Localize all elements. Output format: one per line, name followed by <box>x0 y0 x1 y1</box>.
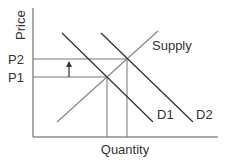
up-arrow-icon <box>66 61 72 77</box>
y-axis-label: Price <box>13 10 28 40</box>
x-axis-label: Quantity <box>101 142 150 157</box>
p1-label: P1 <box>8 70 24 85</box>
supply-label: Supply <box>152 38 192 53</box>
d1-label: D1 <box>157 107 174 122</box>
d2-label: D2 <box>196 107 213 122</box>
supply-demand-diagram: Price Quantity P2 P1 Supply D1 D2 <box>0 0 231 165</box>
p2-label: P2 <box>8 52 24 67</box>
